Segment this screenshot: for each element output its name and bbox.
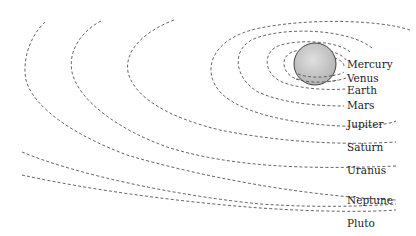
label-earth: Earth bbox=[347, 84, 377, 96]
label-saturn: Saturn bbox=[347, 141, 383, 153]
label-mars: Mars bbox=[347, 99, 374, 111]
planet-labels: Mercury Venus Earth Mars Jupiter Saturn … bbox=[0, 0, 416, 236]
label-neptune: Neptune bbox=[347, 194, 393, 206]
label-uranus: Uranus bbox=[347, 164, 386, 176]
label-jupiter: Jupiter bbox=[346, 118, 384, 130]
label-pluto: Pluto bbox=[347, 217, 375, 229]
label-venus: Venus bbox=[346, 72, 379, 84]
label-mercury: Mercury bbox=[347, 58, 393, 70]
solar-system-diagram: Mercury Venus Earth Mars Jupiter Saturn … bbox=[0, 0, 416, 236]
